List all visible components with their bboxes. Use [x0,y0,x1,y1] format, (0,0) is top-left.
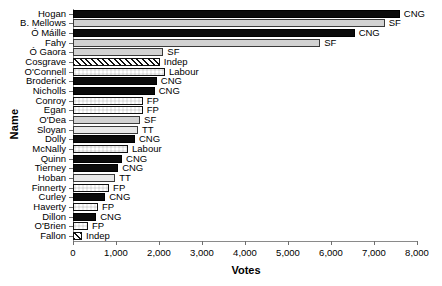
bar [73,184,109,192]
category-label: Fallon [40,230,66,241]
x-axis-tick [245,241,246,245]
party-label: CNG [404,8,425,19]
bar [73,232,82,240]
bar [73,68,165,76]
x-axis-tick-label: 7,000 [362,247,386,258]
bar-row: HoganCNG [73,10,417,19]
party-label: Indep [86,230,110,241]
party-label: SF [389,17,401,28]
x-axis-tick [417,241,418,245]
x-axis-tick-label: 3,000 [190,247,214,258]
bar [73,203,98,211]
bar-row: ConroyFP [73,97,417,106]
bar-row: NichollsCNG [73,87,417,96]
votes-bar-chart: Name HoganCNGB. MellowsSFÓ MáilleCNGFahy… [0,0,442,286]
x-axis-tick [288,241,289,245]
x-axis-tick-label: 1,000 [104,247,128,258]
bar-row: FahySF [73,39,417,48]
bar [73,106,143,114]
bar [73,116,140,124]
bar-row: DillonCNG [73,213,417,222]
bar [73,174,115,182]
bar-row: O'ConnellLabour [73,68,417,77]
plot-area: HoganCNGB. MellowsSFÓ MáilleCNGFahySFÓ G… [73,9,417,241]
x-axis-tick [73,241,74,245]
x-axis-tick [202,241,203,245]
bar-row: O'DeaSF [73,116,417,125]
bar-row: FallonIndep [73,232,417,241]
bar [73,193,105,201]
bar [73,58,160,66]
bar [73,126,138,134]
bar-row: Ó GaoraSF [73,48,417,57]
bar-row: CurleyCNG [73,193,417,202]
party-label: CNG [359,27,380,38]
bar [73,87,155,95]
bar-row: SloyanTT [73,126,417,135]
x-axis-tick [159,241,160,245]
bar [73,29,355,37]
bar-row: O'BrienFP [73,222,417,231]
bar-row: CosgraveIndep [73,58,417,67]
bar [73,164,118,172]
bar [73,145,128,153]
x-axis-tick-label: 6,000 [319,247,343,258]
bar-row: HavertyFP [73,203,417,212]
bar [73,39,320,47]
bar-row: EganFP [73,106,417,115]
x-axis-tick-label: 2,000 [147,247,171,258]
bar [73,135,135,143]
x-axis-tick-label: 8,000 [405,247,429,258]
bar-row: Ó MáilleCNG [73,29,417,38]
bar [73,19,385,27]
x-axis-tick-label: 0 [70,247,75,258]
bar [73,155,122,163]
bar [73,48,163,56]
bar-row: McNallyLabour [73,145,417,154]
y-axis-title: Name [8,94,20,154]
bar-row: BroderickCNG [73,77,417,86]
bar [73,77,157,85]
x-axis-tick-label: 5,000 [276,247,300,258]
party-label: SF [324,37,336,48]
x-axis-title: Votes [0,264,442,276]
party-label: CNG [159,85,180,96]
x-axis-tick [374,241,375,245]
bar [73,97,143,105]
x-axis-tick-label: 4,000 [233,247,257,258]
x-axis-tick [116,241,117,245]
bar [73,10,400,18]
x-axis-tick [331,241,332,245]
bar-row: DollyCNG [73,135,417,144]
